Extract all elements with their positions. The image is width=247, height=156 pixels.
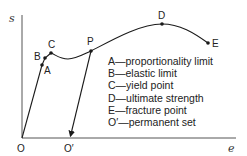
legend: A—proportionality limit B—elastic limit … <box>108 55 213 128</box>
legend-item-permanent-set: O′—permanent set <box>108 116 213 128</box>
point-c-marker <box>49 51 53 55</box>
plastic-curve <box>51 24 208 59</box>
permanent-set-label: O′ <box>64 143 74 154</box>
legend-item-ultimate-strength: D—ultimate strength <box>108 92 213 104</box>
elastic-to-yield-segment <box>42 53 51 65</box>
origin-label: O <box>17 143 25 154</box>
point-d-marker <box>160 22 164 26</box>
x-axis-label: e <box>228 142 235 155</box>
legend-item-fracture-point: E—fracture point <box>108 104 213 116</box>
point-d-label: D <box>158 10 165 21</box>
legend-item-elastic-limit: B—elastic limit <box>108 67 213 79</box>
point-p-label: P <box>87 36 94 47</box>
point-e-label: E <box>212 38 219 49</box>
elastic-loading-line <box>22 65 42 138</box>
point-a-label: A <box>44 65 51 76</box>
unloading-line <box>71 51 92 136</box>
legend-item-yield-point: C—yield point <box>108 79 213 91</box>
legend-item-proportionality-limit: A—proportionality limit <box>108 55 213 67</box>
point-p-marker <box>89 49 93 53</box>
point-e-marker <box>206 41 210 45</box>
point-b-label: B <box>34 51 41 62</box>
point-b-marker <box>43 56 47 60</box>
point-c-label: C <box>48 39 55 50</box>
y-axis-label: s <box>9 12 15 25</box>
